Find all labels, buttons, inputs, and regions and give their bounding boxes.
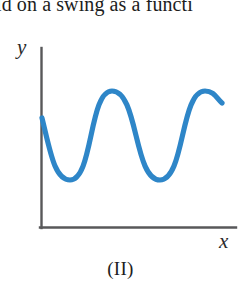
figure-svg (0, 0, 241, 262)
oscillation-curve (42, 91, 222, 180)
figure-page: ld on a swing as a functi y x (II) (0, 0, 241, 286)
swing-oscillation-figure: y x (0, 0, 241, 262)
y-axis-label: y (17, 37, 26, 58)
x-axis-label: x (219, 231, 228, 252)
figure-caption: (II) (0, 258, 241, 280)
